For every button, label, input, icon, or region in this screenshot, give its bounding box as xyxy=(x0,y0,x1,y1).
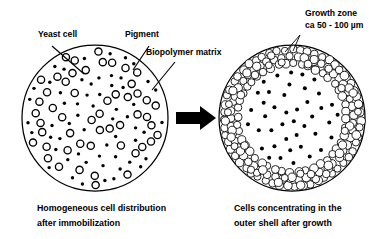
pigment-dot xyxy=(108,52,111,55)
growth-zone-label-line1: Growth zone xyxy=(305,8,357,18)
yeast-cell-circle xyxy=(134,111,141,118)
pigment-dot xyxy=(68,122,71,125)
shell-yeast-cell xyxy=(342,115,350,123)
yeast-cell-circle xyxy=(92,181,99,188)
core-pigment-dot xyxy=(272,105,276,109)
yeast-cell-circle xyxy=(69,70,76,77)
yeast-cell-circle xyxy=(134,90,141,97)
yeast-cell-circle xyxy=(39,129,46,136)
right-caption-line1: Cells concentrating in the xyxy=(234,203,342,213)
core-pigment-dot xyxy=(256,91,260,95)
core-pigment-dot xyxy=(319,148,323,152)
core-pigment-dot xyxy=(246,122,250,126)
core-pigment-dot xyxy=(267,156,271,160)
pigment-dot xyxy=(84,161,87,164)
yeast-cell-circle xyxy=(152,102,159,109)
yeast-cell-circle xyxy=(36,98,43,105)
core-pigment-dot xyxy=(330,103,334,107)
pigment-dot xyxy=(58,137,61,140)
yeast-cell-circle xyxy=(116,122,123,129)
shell-yeast-cell xyxy=(338,141,346,149)
yeast-cell-circle xyxy=(55,163,62,170)
shell-yeast-cell xyxy=(288,173,297,182)
yeast-cell-circle xyxy=(143,113,150,120)
shell-yeast-cell xyxy=(234,113,242,121)
pigment-dot xyxy=(62,67,65,70)
right-caption-line2: outer shell after growth xyxy=(234,218,332,228)
core-pigment-dot xyxy=(319,106,323,110)
pigment-dot xyxy=(98,154,101,157)
pigment-dot xyxy=(85,93,88,96)
core-pigment-dot xyxy=(278,156,282,160)
pigment-dot xyxy=(114,155,117,158)
pigment-dot xyxy=(101,164,104,167)
yeast-cell-circle xyxy=(132,150,139,157)
yeast-cell-circle xyxy=(95,48,102,55)
shell-yeast-cell xyxy=(322,170,330,178)
shell-yeast-cell xyxy=(324,161,333,170)
pigment-dot xyxy=(91,104,94,107)
pigment-dot xyxy=(110,84,113,87)
core-pigment-dot xyxy=(260,147,264,151)
pigment-dot xyxy=(50,124,53,127)
shell-yeast-cell xyxy=(311,66,319,74)
yeast-cell-circle xyxy=(148,122,155,129)
pigment-dot xyxy=(124,56,127,59)
yeast-cell-circle xyxy=(143,97,150,104)
pigment-dot xyxy=(59,91,62,94)
core-pigment-dot xyxy=(288,148,292,152)
yeast-cell-circle xyxy=(147,138,154,145)
shell-yeast-cell xyxy=(290,59,297,66)
yeast-cell-circle xyxy=(106,125,113,132)
core-pigment-dot xyxy=(289,71,293,75)
yeast-cell-circle xyxy=(54,73,61,80)
yeast-cell-circle xyxy=(122,64,129,71)
core-pigment-dot xyxy=(300,73,304,77)
core-pigment-dot xyxy=(284,137,288,141)
pigment-dot xyxy=(114,135,117,138)
yeast-cell-circle xyxy=(99,59,106,66)
pigment-dot xyxy=(49,136,52,139)
right-bead-group xyxy=(219,45,366,191)
yeast-cell-circle xyxy=(43,143,50,150)
yeast-cell-circle xyxy=(91,172,98,179)
pigment-dot xyxy=(76,102,79,105)
core-pigment-dot xyxy=(308,155,312,159)
yeast-cell-circle xyxy=(49,104,56,111)
yeast-cell-circle xyxy=(109,59,116,66)
pigment-dot xyxy=(134,139,137,142)
yeast-cell-circle xyxy=(62,78,69,85)
pigment-dot xyxy=(128,160,131,163)
yeast-cell-label: Yeast cell xyxy=(38,29,77,39)
pigment-dot xyxy=(112,177,115,180)
biopolymer-matrix-label: Biopolymer matrix xyxy=(146,47,222,57)
shell-yeast-cell xyxy=(251,154,258,161)
pigment-dot xyxy=(77,152,80,155)
pigment-dot xyxy=(26,121,29,124)
shell-yeast-cell xyxy=(352,131,361,140)
shell-yeast-cell xyxy=(354,100,362,108)
diagram-canvas: Yeast cell Pigment Biopolymer matrix Gro… xyxy=(0,0,391,239)
shell-yeast-cell xyxy=(345,153,353,161)
shell-yeast-cell xyxy=(259,68,267,76)
core-pigment-dot xyxy=(292,119,296,123)
yeast-cell-circle xyxy=(112,91,119,98)
pigment-dot xyxy=(80,78,83,81)
pigment-dot xyxy=(103,179,106,182)
core-pigment-dot xyxy=(263,114,267,118)
pigment-dot xyxy=(48,80,51,83)
yeast-cell-circle xyxy=(76,166,83,173)
left-caption-line2: after immobilization xyxy=(37,218,120,228)
pigment-dot xyxy=(71,176,74,179)
core-pigment-dot xyxy=(282,93,286,97)
pigment-dot xyxy=(110,74,113,77)
core-pigment-dot xyxy=(299,145,303,149)
core-pigment-dot xyxy=(262,101,266,105)
shell-yeast-cell xyxy=(227,133,235,141)
shell-yeast-cell xyxy=(338,84,345,91)
yeast-cell-circle xyxy=(32,110,39,117)
pigment-dot xyxy=(146,80,149,83)
shell-yeast-cell xyxy=(349,89,357,97)
core-pigment-dot xyxy=(257,128,261,132)
pigment-dot xyxy=(63,102,66,105)
